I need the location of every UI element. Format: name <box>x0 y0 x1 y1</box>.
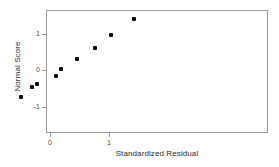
y-axis-tick-label: -1 <box>26 103 40 111</box>
y-axis-tick-label: 1 <box>26 30 40 38</box>
data-point <box>132 17 136 21</box>
x-axis-tick <box>50 133 51 137</box>
data-point <box>59 67 63 71</box>
data-point <box>35 82 39 86</box>
y-axis-tick-label: 0 <box>26 66 40 74</box>
data-point <box>54 74 58 78</box>
plot-area <box>46 10 268 133</box>
x-axis-tick <box>109 133 110 137</box>
data-point <box>30 85 34 89</box>
normal-probability-plot: -2-101-101 Standardized Residual Normal … <box>0 0 279 167</box>
y-axis-tick <box>42 70 46 71</box>
y-axis-tick <box>42 107 46 108</box>
scatter-points-layer <box>47 11 267 132</box>
x-axis-tick-label: 1 <box>99 138 119 147</box>
data-point <box>109 33 113 37</box>
data-point <box>93 46 97 50</box>
x-axis-tick-label: -1 <box>0 138 1 147</box>
y-axis-tick <box>42 34 46 35</box>
x-axis-tick-label: 0 <box>40 138 60 147</box>
data-point <box>75 57 79 61</box>
y-axis-title: Normal Score <box>13 17 22 117</box>
x-axis-title: Standardized Residual <box>46 149 268 158</box>
